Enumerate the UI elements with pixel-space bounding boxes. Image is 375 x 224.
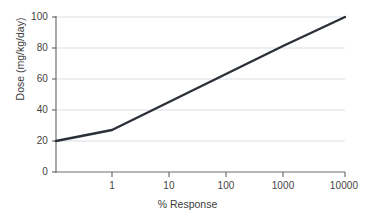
- y-tick-label-0: 0: [18, 166, 48, 177]
- x-axis-title: % Response: [0, 198, 375, 210]
- gridlines: [56, 17, 345, 141]
- y-axis-title: Dose (mg/kg/day): [14, 0, 26, 129]
- y-tick-label-20: 20: [18, 135, 48, 146]
- x-axis: [56, 172, 345, 177]
- x-tick-label-10: 10: [149, 180, 189, 191]
- x-tick-label-1: 1: [92, 180, 132, 191]
- chart-figure: 100 80 60 40 20 0 1 10 100 1000 10000 Do…: [0, 0, 375, 224]
- x-tick-label-1000: 1000: [262, 180, 304, 191]
- x-tick-label-10000: 10000: [320, 180, 368, 191]
- x-tick-label-100: 100: [206, 180, 246, 191]
- y-axis: [52, 16, 56, 173]
